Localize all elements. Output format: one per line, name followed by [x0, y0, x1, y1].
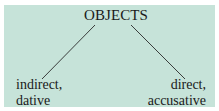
root-node-objects: OBJECTS	[84, 7, 148, 23]
connector-right	[131, 25, 185, 79]
leaf-node-indirect-dative: indirect, dative	[16, 77, 62, 109]
leaf-left-line-1: indirect,	[16, 77, 62, 93]
connector-left	[42, 25, 95, 79]
leaf-right-line-2: accusative	[148, 93, 206, 109]
leaf-right-line-1: direct,	[148, 77, 206, 93]
leaf-left-line-2: dative	[16, 93, 62, 109]
leaf-node-direct-accusative: direct, accusative	[148, 77, 206, 109]
